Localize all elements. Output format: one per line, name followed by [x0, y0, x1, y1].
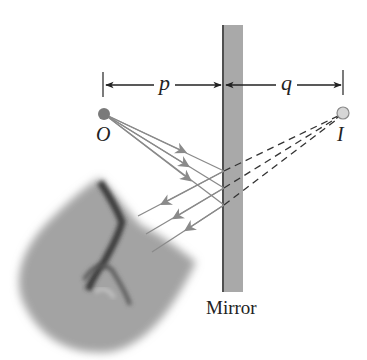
mirror-label: Mirror: [206, 298, 257, 317]
object-point: [98, 108, 110, 120]
mirror: [222, 25, 243, 292]
diagram-canvas: p q O I Mirror: [0, 0, 367, 360]
object-label: O: [96, 124, 110, 144]
diagram-svg: [0, 0, 367, 360]
image-label: I: [337, 124, 344, 144]
observer-eye-image: [19, 178, 196, 353]
object-distance-label: p: [154, 72, 175, 94]
incident-rays: [104, 114, 224, 205]
image-distance-label: q: [276, 72, 297, 94]
image-point: [337, 107, 349, 119]
